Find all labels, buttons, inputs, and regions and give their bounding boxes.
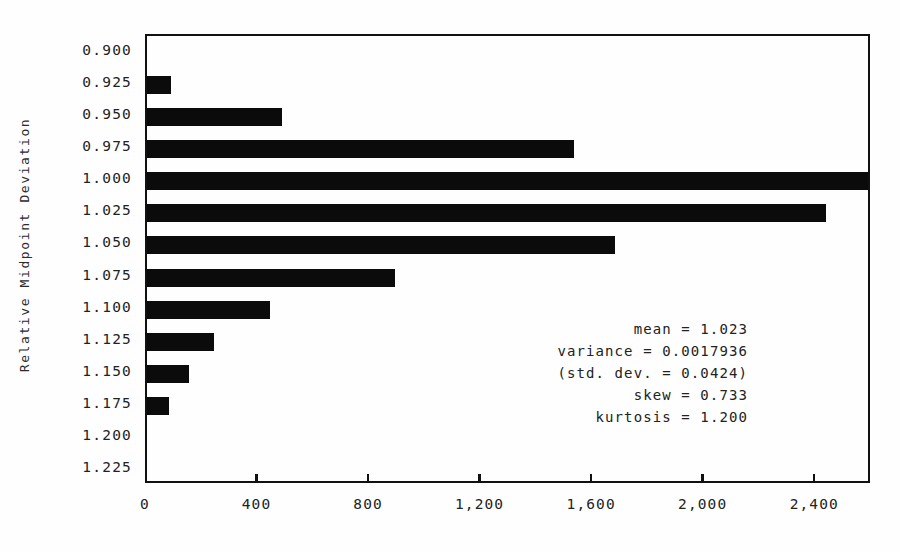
y-tick-label: 0.950 (82, 105, 132, 123)
y-tick-label: 1.225 (82, 458, 132, 476)
bar (147, 204, 826, 222)
x-tick-label: 2,000 (678, 496, 727, 512)
x-tick-mark (478, 474, 481, 483)
x-axis-ticks: 04008001,2001,6002,0002,400 (145, 483, 870, 543)
x-tick-label: 800 (353, 496, 383, 512)
x-tick-mark (255, 474, 258, 483)
bar (147, 76, 171, 94)
x-tick-mark (367, 474, 370, 483)
bar (147, 397, 169, 415)
bar (147, 333, 214, 351)
y-axis-tick-labels: 0.9000.9250.9500.9751.0001.0251.0501.075… (0, 34, 138, 483)
stat-kurtosis: kurtosis = 1.200 (430, 406, 748, 428)
bar (147, 108, 282, 126)
chart-figure: Relative Midpoint Deviation 0.9000.9250.… (0, 0, 900, 552)
x-tick-mark (701, 474, 704, 483)
stat-mean: mean = 1.023 (430, 318, 748, 340)
x-tick-label: 2,400 (790, 496, 839, 512)
x-tick-mark (813, 474, 816, 483)
y-tick-label: 0.925 (82, 73, 132, 91)
y-tick-label: 1.150 (82, 362, 132, 380)
y-tick-label: 1.125 (82, 330, 132, 348)
y-tick-label: 1.000 (82, 169, 132, 187)
stat-skew: skew = 0.733 (430, 384, 748, 406)
bar (147, 301, 270, 319)
bar (147, 269, 395, 287)
y-tick-label: 0.900 (82, 41, 132, 59)
y-tick-label: 1.075 (82, 266, 132, 284)
bar (147, 140, 574, 158)
y-tick-label: 1.200 (82, 426, 132, 444)
x-tick-label: 1,200 (455, 496, 504, 512)
x-tick-label: 400 (242, 496, 272, 512)
bar (147, 172, 870, 190)
y-tick-label: 1.100 (82, 298, 132, 316)
y-tick-label: 1.175 (82, 394, 132, 412)
x-tick-label: 1,600 (567, 496, 616, 512)
y-tick-label: 1.025 (82, 201, 132, 219)
stat-stddev: (std. dev. = 0.0424) (430, 362, 748, 384)
x-tick-label: 0 (140, 496, 150, 512)
y-tick-label: 0.975 (82, 137, 132, 155)
bar (147, 236, 615, 254)
stat-variance: variance = 0.0017936 (430, 340, 748, 362)
bar (147, 365, 189, 383)
x-tick-mark (590, 474, 593, 483)
y-tick-label: 1.050 (82, 233, 132, 251)
statistics-annotation: mean = 1.023 variance = 0.0017936 (std. … (430, 318, 748, 428)
